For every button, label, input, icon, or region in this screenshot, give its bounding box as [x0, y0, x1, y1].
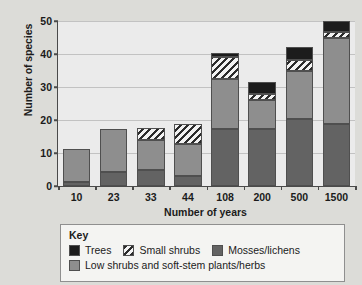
bar-segment — [211, 79, 238, 129]
legend-row-top: Trees Small shrubs Mosses/lichens — [69, 244, 336, 256]
x-tick-label: 23 — [108, 191, 120, 203]
legend-item-small-shrubs: Small shrubs — [123, 244, 212, 256]
x-tick-label: 44 — [182, 191, 194, 203]
bar-segment — [63, 182, 90, 186]
bar-segment — [174, 124, 201, 144]
bar-segment — [100, 129, 127, 173]
legend-row-bottom: Low shrubs and soft-stem plants/herbs — [69, 259, 336, 271]
bar-segment — [286, 119, 313, 186]
legend: Key Trees Small shrubs Mosses/lichens Lo… — [60, 224, 345, 282]
bar-segment — [323, 124, 350, 186]
bar-segment — [137, 128, 164, 140]
bar-segment — [174, 144, 201, 176]
bar-segment — [248, 94, 275, 101]
bar-segment — [248, 82, 275, 94]
x-tick-mark — [318, 186, 320, 190]
legend-label-trees: Trees — [85, 244, 111, 256]
legend-item-trees: Trees — [69, 244, 123, 256]
bar-segment — [248, 129, 275, 186]
bar-group-108 — [211, 53, 238, 186]
x-axis-title: Number of years — [57, 206, 354, 218]
bar-series-container — [58, 21, 355, 186]
bar-segment — [100, 172, 127, 186]
mosses-lichens-swatch-icon — [212, 245, 223, 256]
legend-title: Key — [69, 229, 336, 241]
bar-segment — [211, 129, 238, 186]
bar-segment — [323, 21, 350, 32]
legend-label-low-shrubs: Low shrubs and soft-stem plants/herbs — [85, 259, 265, 271]
bar-group-44 — [174, 124, 201, 186]
bar-segment — [286, 47, 313, 59]
legend-label-small-shrubs: Small shrubs — [139, 244, 200, 256]
x-tick-mark — [132, 186, 134, 190]
bar-segment — [174, 176, 201, 186]
legend-item-mosses-lichens: Mosses/lichens — [212, 244, 312, 256]
bar-segment — [248, 100, 275, 129]
bar-segment — [323, 32, 350, 38]
trees-swatch-icon — [69, 245, 80, 256]
low-shrubs-swatch-icon — [69, 260, 80, 271]
legend-item-low-shrubs: Low shrubs and soft-stem plants/herbs — [69, 259, 277, 271]
small-shrubs-swatch-icon — [123, 245, 134, 256]
chart-figure: Number of species 01020304050 1023334410… — [0, 0, 362, 285]
x-tick-mark — [355, 186, 357, 190]
y-tick-label: 40 — [26, 48, 58, 60]
bar-segment — [211, 53, 238, 57]
x-tick-label: 500 — [291, 191, 309, 203]
bar-segment — [137, 140, 164, 170]
y-tick-label: 10 — [26, 147, 58, 159]
x-tick-mark — [281, 186, 283, 190]
x-tick-mark — [244, 186, 246, 190]
x-tick-mark — [58, 186, 60, 190]
bar-segment — [211, 57, 238, 78]
x-tick-mark — [95, 186, 97, 190]
bar-group-1500 — [323, 21, 350, 186]
plot-area: 01020304050 102333441082005001500 — [57, 21, 355, 187]
bar-group-10 — [63, 149, 90, 186]
x-tick-label: 1500 — [325, 191, 348, 203]
x-tick-label: 33 — [145, 191, 157, 203]
x-tick-mark — [207, 186, 209, 190]
bar-group-200 — [248, 82, 275, 186]
x-tick-label: 10 — [71, 191, 83, 203]
bar-segment — [286, 60, 313, 71]
y-tick-label: 50 — [26, 15, 58, 27]
x-tick-label: 200 — [253, 191, 271, 203]
y-tick-label: 20 — [26, 114, 58, 126]
bar-group-33 — [137, 128, 164, 186]
bar-group-500 — [286, 47, 313, 186]
x-tick-label: 108 — [216, 191, 234, 203]
y-tick-label: 0 — [26, 180, 58, 192]
bar-segment — [286, 71, 313, 120]
bar-segment — [323, 38, 350, 124]
legend-label-mosses-lichens: Mosses/lichens — [228, 244, 300, 256]
bar-segment — [137, 170, 164, 186]
bar-group-23 — [100, 129, 127, 186]
x-tick-mark — [169, 186, 171, 190]
y-tick-label: 30 — [26, 81, 58, 93]
bar-segment — [63, 149, 90, 182]
